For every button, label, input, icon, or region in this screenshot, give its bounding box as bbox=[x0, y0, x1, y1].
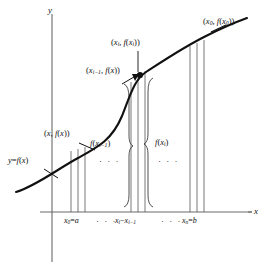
comma: , bbox=[213, 16, 215, 26]
comma: , bbox=[51, 128, 53, 138]
brace-label-f-xi-minus-1: f(xi−1) bbox=[90, 139, 110, 149]
brace-ellipsis-left: · · · bbox=[99, 156, 120, 166]
axis-ellipsis-left: · · · bbox=[96, 216, 117, 226]
value-b: b bbox=[193, 216, 197, 225]
tick-label-xn-b: xn=b bbox=[182, 217, 197, 226]
paren-close: ) bbox=[67, 128, 70, 138]
point-label-x-fx: (x, f(x)) bbox=[44, 129, 70, 138]
value-a: a bbox=[75, 216, 79, 225]
point-label-xi: (xi, f(xi)) bbox=[111, 38, 140, 48]
brace-left-middle bbox=[124, 84, 133, 207]
subscript-i-minus-1: i−1 bbox=[128, 219, 136, 225]
brace-label-f-xi: f(xi) bbox=[155, 138, 168, 148]
tick-label-x0-a: x0=a bbox=[64, 217, 79, 226]
paren-close: ) bbox=[137, 37, 140, 47]
paren-close: ) bbox=[166, 137, 169, 147]
paren-close: ) bbox=[232, 16, 235, 26]
tick-label-xi-difference: xi−xi−1 bbox=[115, 217, 136, 226]
brace-ellipsis-right: · · · bbox=[158, 156, 179, 166]
x-axis-label: x bbox=[254, 206, 258, 216]
point-label-xi-minus-1: (xi−1, f(x)) bbox=[86, 66, 120, 76]
paren-close: ) bbox=[107, 138, 110, 148]
curve-equation-label: y=f(x) bbox=[8, 156, 28, 165]
curve-eq-close: ) bbox=[26, 155, 29, 165]
point-label-x0-fx0: (x0, f(x0)) bbox=[203, 17, 234, 27]
partition-lines-middle-group bbox=[131, 71, 145, 212]
y-axis-label: y bbox=[48, 5, 52, 15]
partition-lines-right-group bbox=[190, 40, 204, 212]
comma: , bbox=[119, 37, 121, 47]
axis-ellipsis-right: · · · bbox=[161, 216, 182, 226]
comma: , bbox=[101, 65, 103, 75]
paren-close: ) bbox=[117, 65, 120, 75]
subscript-i-minus-1: i−1 bbox=[93, 69, 101, 75]
partition-lines-left-group bbox=[71, 147, 85, 212]
calculus-arc-length-figure: y x y=f(x) (x, f(x)) (xi−1, f(x)) (xi, f… bbox=[0, 0, 267, 273]
